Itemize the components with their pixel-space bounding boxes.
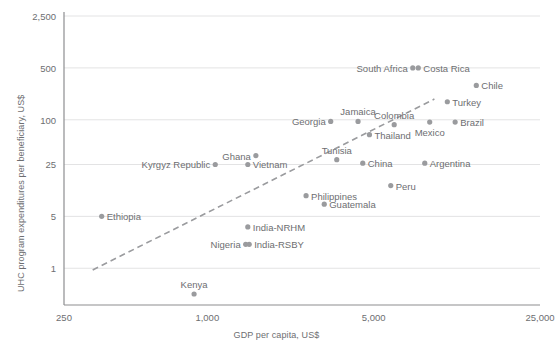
point-label: Peru [396, 180, 416, 191]
data-point[interactable] [360, 161, 365, 166]
data-point[interactable] [422, 161, 427, 166]
data-point[interactable] [99, 214, 104, 219]
point-label: Georgia [0, 116, 326, 127]
data-point[interactable] [388, 183, 393, 188]
data-point[interactable] [245, 162, 250, 167]
data-point[interactable] [191, 291, 196, 296]
data-point[interactable] [322, 202, 327, 207]
y-tick-label: 1 [0, 263, 56, 274]
data-point[interactable] [213, 162, 218, 167]
point-label: India-NRHM [253, 221, 305, 232]
point-label: India-RSBY [254, 239, 304, 250]
x-tick-label: 1,000 [195, 312, 219, 323]
point-label: Tunisia [322, 144, 352, 155]
point-label: Nigeria [0, 239, 241, 250]
x-tick-label: 250 [56, 312, 72, 323]
point-label: Thailand [374, 129, 410, 140]
x-tick-label: 5,000 [362, 312, 386, 323]
x-tick-label: 25,000 [525, 312, 554, 323]
point-label: Brazil [460, 117, 484, 128]
data-point[interactable] [367, 132, 372, 137]
point-label: Turkey [452, 96, 481, 107]
point-label: Vietnam [253, 159, 288, 170]
point-label: Kenya [181, 279, 208, 290]
point-label: Mexico [415, 127, 445, 138]
data-point[interactable] [416, 65, 421, 70]
data-point[interactable] [253, 153, 258, 158]
data-point[interactable] [392, 122, 397, 127]
point-label: Costa Rica [423, 62, 469, 73]
data-point[interactable] [328, 119, 333, 124]
data-point[interactable] [247, 242, 252, 247]
point-label: Argentina [430, 158, 471, 169]
data-point[interactable] [445, 99, 450, 104]
point-label: South Africa [0, 62, 408, 73]
y-tick-label: 2,500 [0, 11, 56, 22]
data-point[interactable] [453, 120, 458, 125]
data-point[interactable] [427, 120, 432, 125]
data-point[interactable] [334, 157, 339, 162]
point-label: Chile [481, 80, 503, 91]
point-label: Ethiopia [107, 211, 141, 222]
data-point[interactable] [355, 119, 360, 124]
data-point[interactable] [474, 83, 479, 88]
point-label: Ghana [0, 150, 251, 161]
data-point[interactable] [245, 224, 250, 229]
data-point[interactable] [303, 193, 308, 198]
x-axis-title: GDP per capita, US$ [0, 330, 553, 340]
point-label: China [368, 158, 393, 169]
data-point[interactable] [410, 65, 415, 70]
point-label: Colombia [374, 109, 414, 120]
y-tick-label: 5 [0, 211, 56, 222]
point-label: Guatemala [329, 199, 375, 210]
point-label: Jamaica [340, 106, 375, 117]
